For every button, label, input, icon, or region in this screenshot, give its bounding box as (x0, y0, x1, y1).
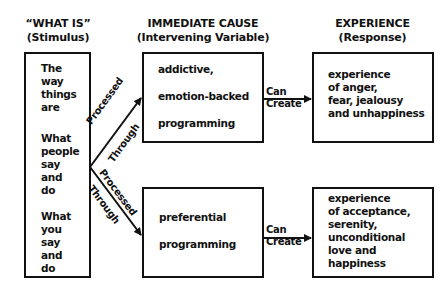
connector-arrows (0, 0, 443, 297)
label-can-create-lower: Can Create (266, 224, 302, 248)
label-can-create-upper: Can Create (266, 86, 302, 110)
